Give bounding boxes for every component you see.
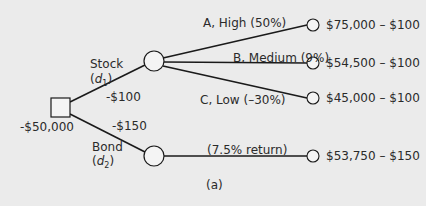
stock-cost-label: -$100 [106, 91, 141, 104]
root-cost-label: -$50,000 [20, 121, 74, 134]
outcome-c-label: C, Low (–30%) [200, 94, 286, 107]
stock-var-subscript: 1 [102, 79, 107, 88]
terminal-node-a [307, 19, 319, 31]
bond-var-subscript: 2 [104, 161, 109, 170]
terminal-node-bond [307, 150, 319, 162]
stock-variable-label: (d1) [90, 73, 112, 90]
bond-outcome-label: (7.5% return) [207, 144, 287, 157]
terminal-node-c [307, 92, 319, 104]
figure-caption: (a) [206, 179, 223, 192]
stock-label: Stock [90, 58, 123, 71]
bond-label: Bond [92, 141, 123, 154]
outcome-b-label: B, Medium (9%) [233, 52, 329, 65]
bond-cost-label: -$150 [112, 120, 147, 133]
bond-variable-label: (d2) [92, 155, 114, 172]
payoff-bond: $53,750 – $150 [326, 150, 420, 163]
stock-chance-node [144, 51, 164, 71]
outcome-a-label: A, High (50%) [203, 17, 286, 30]
payoff-b: $54,500 – $100 [326, 57, 420, 70]
bond-chance-node [144, 146, 164, 166]
payoff-c: $45,000 – $100 [326, 92, 420, 105]
decision-node-square [51, 98, 70, 117]
payoff-a: $75,000 – $100 [326, 19, 420, 32]
decision-tree-diagram: -$50,000 Stock (d1) -$100 -$150 Bond (d2… [0, 0, 426, 206]
